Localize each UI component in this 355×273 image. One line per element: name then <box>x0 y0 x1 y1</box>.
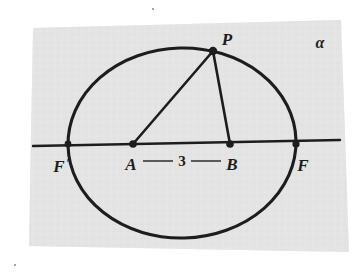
measure-label-3: 3 <box>178 153 186 169</box>
point-f-dot <box>292 140 299 147</box>
label-focus-right: F <box>296 156 309 175</box>
label-focus-left: F <box>52 157 65 176</box>
figure-page: 3 P A B F ′ F α <box>0 0 355 273</box>
geometry-figure: 3 P A B F ′ F α <box>0 0 355 273</box>
label-plane-alpha: α <box>316 34 326 51</box>
label-point-a: A <box>124 155 136 174</box>
scan-speck-top <box>152 8 154 10</box>
point-p-dot <box>209 47 217 55</box>
label-point-p: P <box>221 30 233 49</box>
point-a-dot <box>129 140 137 148</box>
label-focus-left-prime: ′ <box>66 156 69 170</box>
label-point-b: B <box>225 155 237 174</box>
scan-speck-bottom <box>14 264 16 266</box>
point-b-dot <box>226 140 234 148</box>
point-f-prime-dot <box>65 141 72 148</box>
plane-alpha <box>29 20 349 252</box>
plane-tint <box>29 20 349 252</box>
